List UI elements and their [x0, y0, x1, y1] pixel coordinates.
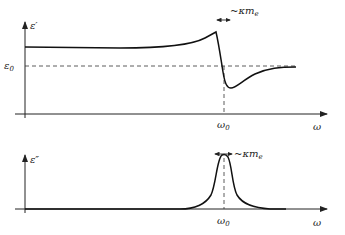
- top-ylabel: ε′: [30, 20, 38, 31]
- bottom-omega0-label: ω0: [217, 215, 230, 228]
- bottom-width-label: ~κme: [234, 148, 263, 161]
- bottom-ylabel: ε″: [30, 154, 39, 165]
- bottom-xlabel: ω: [313, 217, 321, 228]
- real-part-curve: [25, 32, 296, 88]
- top-width-label: ~κme: [230, 5, 259, 18]
- bottom-panel-imaginary-part: ε″ ~κme ω0 ω: [15, 148, 327, 228]
- imaginary-part-curve: [25, 154, 286, 209]
- epsilon0-label: ε0: [4, 60, 14, 73]
- top-xlabel: ω: [313, 121, 321, 132]
- top-omega0-label: ω0: [217, 119, 230, 132]
- top-panel-real-part: ε′ ε0 ~κme ω0 ω: [4, 5, 327, 132]
- dielectric-dispersion-diagram: ε′ ε0 ~κme ω0 ω ε″ ~κme ω0 ω: [0, 0, 345, 235]
